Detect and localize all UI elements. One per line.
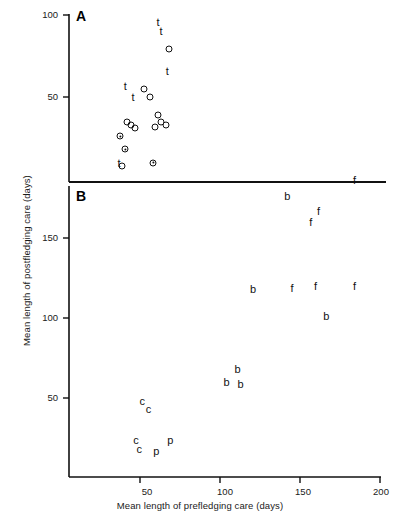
data-point-frigatebirds: f [353,281,356,292]
panel-b-letter: B [76,188,86,204]
data-point-boobies: b [223,377,229,388]
data-point-boobies: b [250,284,256,295]
data-point-dagger-marker: t [131,92,134,103]
data-point-open-circle [140,85,147,92]
data-point-cormorants: c [136,444,142,455]
data-point-dotted-circle [117,133,124,140]
axes-frame [0,0,400,526]
data-point-open-circle [131,125,138,132]
figure-scatter-plot: A B Mean length of postfledging care (da… [0,0,400,526]
panel-b-ytick-label-100: 100 [20,312,58,323]
data-point-frigatebirds: f [291,282,294,293]
data-point-dagger-marker: t [166,65,169,76]
data-point-dagger-marker: t [124,80,127,91]
data-point-open-circle [165,46,172,53]
data-point-open-circle [147,94,154,101]
data-point-frigatebirds: f [317,205,320,216]
panel-b-ytick-label-150: 150 [20,232,58,243]
xtick-label-200: 200 [361,486,400,497]
xtick-label-150: 150 [283,486,323,497]
xtick-label-50: 50 [127,486,167,497]
data-point-open-circle [151,123,158,130]
y-axis-title: Mean length of postfledging care (days) [21,161,32,361]
data-point-frigatebirds: f [309,217,312,228]
data-point-cormorants: c [146,404,152,415]
panel-a-letter: A [76,8,86,24]
data-point-boobies: b [234,364,240,375]
data-point-open-circle [119,162,126,169]
data-point-open-circle [162,121,169,128]
panel-a-ytick-label-100: 100 [20,9,58,20]
x-axis-title: Mean length of prefledging care (days) [0,500,400,511]
data-point-frigatebirds: f [353,175,356,186]
data-point-frigatebirds: f [314,281,317,292]
data-point-boobies: b [284,191,290,202]
data-point-dotted-circle [122,146,129,153]
data-point-dagger-marker: t [160,26,163,37]
data-point-pelicans: p [167,434,173,445]
panel-a-ytick-label-50: 50 [20,91,58,102]
data-point-dotted-circle [150,159,157,166]
data-point-cormorants: c [140,396,146,407]
data-point-boobies: b [238,378,244,389]
data-point-boobies: b [323,311,329,322]
data-point-pelicans: p [153,445,159,456]
panel-b-ytick-label-50: 50 [20,392,58,403]
xtick-label-100: 100 [205,486,245,497]
